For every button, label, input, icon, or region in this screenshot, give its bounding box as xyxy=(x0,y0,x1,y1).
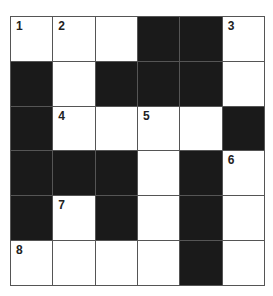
black-cell xyxy=(96,196,137,240)
crossword-cell[interactable] xyxy=(53,241,94,285)
black-cell xyxy=(223,107,264,151)
crossword-cell[interactable] xyxy=(138,151,179,195)
black-cell xyxy=(180,196,221,240)
black-cell xyxy=(96,151,137,195)
black-cell xyxy=(180,17,221,61)
crossword-cell[interactable]: 3 xyxy=(223,17,264,61)
clue-number: 8 xyxy=(16,244,23,256)
crossword-cell[interactable]: 5 xyxy=(138,107,179,151)
crossword-cell[interactable] xyxy=(180,107,221,151)
crossword-cell[interactable] xyxy=(138,241,179,285)
black-cell xyxy=(11,151,52,195)
black-cell xyxy=(180,241,221,285)
black-cell xyxy=(11,62,52,106)
crossword-cell[interactable]: 4 xyxy=(53,107,94,151)
black-cell xyxy=(53,151,94,195)
clue-number: 4 xyxy=(58,110,65,122)
black-cell xyxy=(180,62,221,106)
crossword-cell[interactable] xyxy=(53,62,94,106)
clue-number: 3 xyxy=(228,20,235,32)
crossword-cell[interactable]: 8 xyxy=(11,241,52,285)
crossword-cell[interactable] xyxy=(223,62,264,106)
crossword-cell[interactable]: 6 xyxy=(223,151,264,195)
black-cell xyxy=(138,17,179,61)
crossword-cell[interactable]: 1 xyxy=(11,17,52,61)
clue-number: 6 xyxy=(228,154,235,166)
clue-number: 5 xyxy=(143,110,150,122)
black-cell xyxy=(11,196,52,240)
clue-number: 7 xyxy=(58,199,65,211)
crossword-cell[interactable]: 7 xyxy=(53,196,94,240)
crossword-cell[interactable] xyxy=(96,17,137,61)
clue-number: 1 xyxy=(16,20,23,32)
black-cell xyxy=(96,62,137,106)
crossword-cell[interactable] xyxy=(96,107,137,151)
clue-number: 2 xyxy=(58,20,65,32)
crossword-cell[interactable] xyxy=(223,241,264,285)
crossword-cell[interactable] xyxy=(138,196,179,240)
crossword-grid: 12345678 xyxy=(10,16,265,286)
black-cell xyxy=(180,151,221,195)
black-cell xyxy=(138,62,179,106)
black-cell xyxy=(11,107,52,151)
crossword-cell[interactable] xyxy=(223,196,264,240)
crossword-cell[interactable]: 2 xyxy=(53,17,94,61)
crossword-cell[interactable] xyxy=(96,241,137,285)
